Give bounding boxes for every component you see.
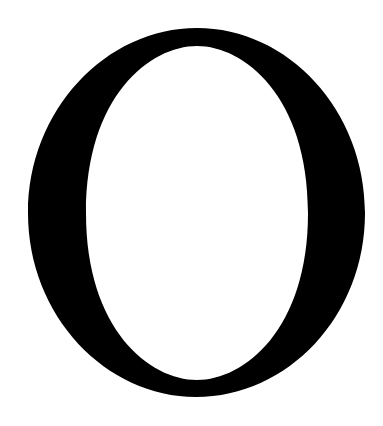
- letter-o-glyph: O: [0, 0, 383, 426]
- letter-o-icon: [0, 0, 383, 426]
